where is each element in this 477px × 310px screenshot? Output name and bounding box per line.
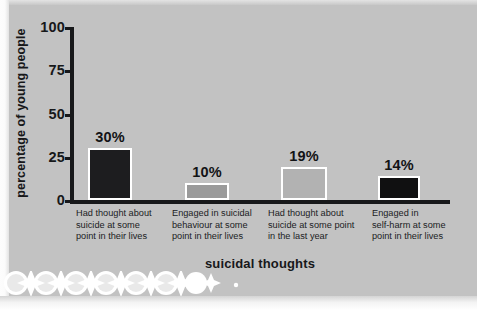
x-category-line: self-harm at some: [372, 220, 467, 232]
x-category-line: suicide at some point: [268, 220, 368, 232]
chart-figure: percentage of young people 0 25 50 75 10…: [0, 0, 477, 310]
x-category-label-3: Engaged in self-harm at some point in th…: [372, 208, 467, 243]
bar-value-label-2: 19%: [289, 148, 319, 164]
x-category-line: behaviour at some: [172, 220, 268, 232]
y-tick-label-50: 50: [48, 105, 65, 121]
x-category-line: Engaged in: [372, 208, 467, 220]
x-category-line: point in their lives: [172, 231, 268, 243]
bar-value-label-1: 10%: [192, 164, 222, 180]
plot-area: 0 25 50 75 100 30% 10% 19% 14%: [70, 27, 450, 200]
bar-3: 14%: [378, 176, 420, 200]
x-category-line: suicide at some: [76, 220, 169, 232]
x-category-line: point in their lives: [372, 231, 467, 243]
x-category-label-0: Had thought about suicide at some point …: [76, 208, 169, 243]
x-category-line: point in their lives: [76, 231, 169, 243]
x-category-line: Had thought about: [76, 208, 169, 220]
y-tick-label-25: 25: [48, 148, 65, 164]
y-tick-label-0: 0: [57, 192, 65, 208]
bar-value-label-3: 14%: [384, 157, 414, 173]
x-axis-title: suicidal thoughts: [70, 256, 450, 271]
x-category-line: Engaged in suicidal: [172, 208, 268, 220]
bar-0: 30%: [88, 148, 132, 200]
y-tick-label-100: 100: [40, 19, 65, 35]
scan-edge-top: [0, 0, 477, 5]
scan-edge-left: [0, 0, 9, 310]
bar-2: 19%: [281, 167, 327, 200]
x-category-label-2: Had thought about suicide at some point …: [268, 208, 368, 243]
x-category-label-1: Engaged in suicidal behaviour at some po…: [172, 208, 268, 243]
bar-value-label-0: 30%: [95, 129, 125, 145]
y-axis-title: percentage of young people: [14, 24, 30, 202]
x-axis-line: [70, 200, 450, 204]
y-tick-label-75: 75: [48, 62, 65, 78]
x-category-line: in the last year: [268, 231, 368, 243]
bar-1: 10%: [185, 183, 229, 200]
x-category-line: Had thought about: [268, 208, 368, 220]
scan-edge-bottom: [0, 296, 477, 310]
